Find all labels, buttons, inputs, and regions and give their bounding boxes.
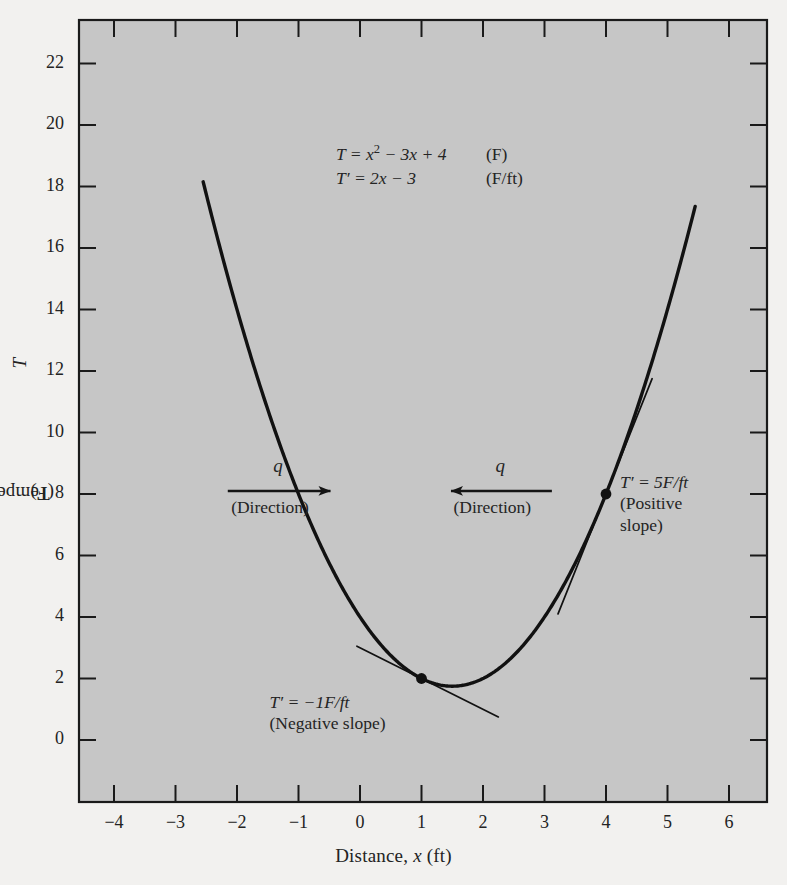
x-axis-title-post: (ft) xyxy=(422,845,452,866)
y-tick-label: 8 xyxy=(18,482,64,503)
flux-symbol-left: q xyxy=(273,455,283,477)
x-axis-title-var: x xyxy=(413,845,422,866)
equation-line-2: T′ = 2x − 3(F/ft) xyxy=(336,167,523,191)
negative-slope-value: T′ = −1F/ft xyxy=(270,692,350,712)
x-tick-label: 4 xyxy=(586,812,626,833)
y-tick-label: 4 xyxy=(18,605,64,626)
equation-1-expression-pre: T = x xyxy=(336,144,374,164)
x-axis-title-pre: Distance, xyxy=(335,845,413,866)
positive-slope-caption-1: (Positive xyxy=(620,493,688,514)
x-tick-label: 0 xyxy=(340,812,380,833)
y-tick-label: 12 xyxy=(18,359,64,380)
y-tick-label: 10 xyxy=(18,421,64,442)
y-tick-label: 18 xyxy=(18,175,64,196)
negative-slope-caption: (Negative slope) xyxy=(270,713,386,734)
flux-caption-right: (Direction) xyxy=(453,497,531,518)
x-tick-label: −4 xyxy=(94,812,134,833)
equation-line-1: T = x2 − 3x + 4(F) xyxy=(336,143,523,167)
plot-area xyxy=(0,0,787,885)
x-tick-label: −2 xyxy=(217,812,257,833)
curve-point-marker xyxy=(416,673,427,684)
curve-point-marker xyxy=(601,489,612,500)
positive-slope-caption-2: slope) xyxy=(620,515,688,536)
x-tick-label: 5 xyxy=(648,812,688,833)
y-tick-label: 6 xyxy=(18,544,64,565)
y-tick-label: 0 xyxy=(18,728,64,749)
y-tick-label: 14 xyxy=(18,298,64,319)
y-tick-label: 16 xyxy=(18,236,64,257)
equation-block: T = x2 − 3x + 4(F) T′ = 2x − 3(F/ft) xyxy=(336,143,523,190)
positive-slope-annotation: T′ = 5F/ft (Positive slope) xyxy=(620,472,688,536)
equation-1-units: (F) xyxy=(486,144,507,164)
positive-slope-value: T′ = 5F/ft xyxy=(620,472,688,492)
equation-2-units: (F/ft) xyxy=(486,168,523,188)
equation-1-expression-post: − 3x + 4 xyxy=(380,144,446,164)
equation-2-expression: T′ = 2x − 3 xyxy=(336,168,416,188)
y-tick-label: 2 xyxy=(18,667,64,688)
x-tick-label: 6 xyxy=(709,812,749,833)
negative-slope-annotation: T′ = −1F/ft (Negative slope) xyxy=(270,692,386,735)
y-tick-label: 22 xyxy=(18,52,64,73)
x-tick-label: −3 xyxy=(156,812,196,833)
x-tick-label: 1 xyxy=(402,812,442,833)
plot-panel-background xyxy=(79,20,767,802)
x-tick-label: −1 xyxy=(279,812,319,833)
x-axis-title: Distance, x (ft) xyxy=(0,845,787,867)
flux-symbol-right: q xyxy=(495,455,505,477)
x-tick-label: 3 xyxy=(525,812,565,833)
figure-canvas: T = x2 − 3x + 4(F) T′ = 2x − 3(F/ft) q (… xyxy=(0,0,787,885)
flux-caption-left: (Direction) xyxy=(231,497,309,518)
y-tick-label: 20 xyxy=(18,113,64,134)
x-tick-label: 2 xyxy=(463,812,503,833)
